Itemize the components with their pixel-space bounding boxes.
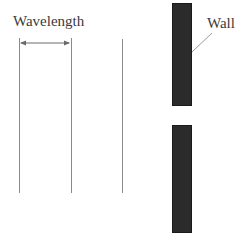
wall-leader-line — [192, 33, 212, 52]
annotation-overlay — [0, 0, 244, 239]
wavelength-arrow-icon — [20, 41, 70, 46]
